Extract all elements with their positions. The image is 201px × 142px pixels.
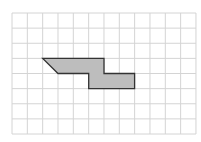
grid-figure	[0, 0, 201, 142]
